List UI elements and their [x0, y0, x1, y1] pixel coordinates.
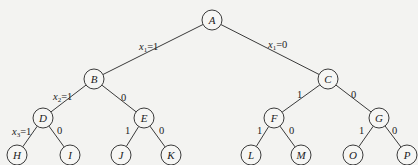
- edge-label-G-P: 0: [392, 125, 397, 136]
- node-label: L: [247, 149, 254, 161]
- node-B: B: [84, 69, 104, 89]
- tree-edges: [23, 24, 401, 147]
- node-label: K: [166, 149, 175, 161]
- node-I: I: [60, 145, 80, 165]
- node-O: O: [343, 145, 363, 165]
- node-D: D: [33, 108, 53, 128]
- node-P: P: [397, 145, 417, 165]
- node-label: E: [140, 112, 148, 124]
- node-label: H: [12, 149, 22, 161]
- node-C: C: [318, 69, 338, 89]
- edge-label-D-I: 0: [57, 125, 62, 136]
- edge-label-F-M: 0: [289, 125, 294, 136]
- node-label: B: [91, 73, 98, 85]
- edge-label-B-E: 0: [121, 92, 126, 103]
- decision-tree-diagram: x1=1x1=0x2=10x3=1010101010 ABCDEFGHIJKLM…: [0, 0, 418, 165]
- edge-label-E-K: 0: [159, 125, 164, 136]
- node-label: A: [208, 14, 216, 26]
- node-F: F: [264, 108, 284, 128]
- node-K: K: [161, 145, 181, 165]
- node-J: J: [111, 145, 131, 165]
- edge-label-C-G: 0: [351, 89, 356, 100]
- node-E: E: [134, 108, 154, 128]
- node-label: O: [349, 149, 357, 161]
- edge-label-C-F: 1: [297, 89, 302, 100]
- node-A: A: [202, 10, 222, 30]
- edge-label-E-J: 1: [125, 125, 130, 136]
- node-label: G: [375, 112, 383, 124]
- edge-B-E: [102, 85, 136, 112]
- tree-nodes: ABCDEFGHIJKLMOP: [7, 10, 417, 165]
- node-H: H: [7, 145, 27, 165]
- node-L: L: [241, 145, 261, 165]
- node-G: G: [369, 108, 389, 128]
- node-label: D: [38, 112, 47, 124]
- node-label: P: [403, 149, 411, 161]
- edge-label-G-O: 1: [359, 125, 364, 136]
- node-label: F: [270, 112, 278, 124]
- edge-label-D-H: x3=1: [11, 126, 31, 139]
- edge-label-B-D: x2=1: [52, 91, 72, 104]
- node-label: M: [295, 149, 306, 161]
- node-label: C: [324, 73, 332, 85]
- edge-label-F-L: 1: [257, 125, 262, 136]
- edge-labels: x1=1x1=0x2=10x3=1010101010: [11, 39, 397, 139]
- node-M: M: [291, 145, 311, 165]
